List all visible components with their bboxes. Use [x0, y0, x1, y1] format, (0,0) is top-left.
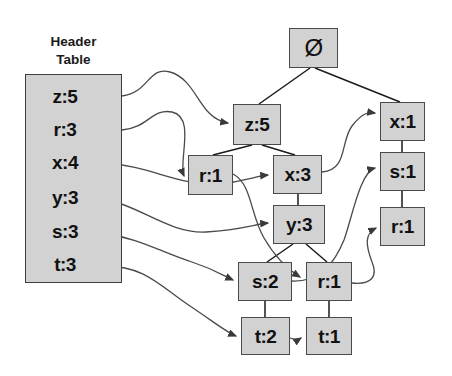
- link-x3-to-x1: [322, 113, 375, 172]
- edge-z5-x3: [262, 145, 295, 155]
- tree-node-t1[interactable]: t:1: [306, 317, 352, 355]
- link-header-s-to-s2: [105, 234, 233, 280]
- tree-node-s2[interactable]: s:2: [238, 262, 292, 301]
- link-t2-to-t1: [290, 338, 301, 340]
- link-header-t-to-t2: [105, 266, 236, 336]
- edge-root-x1: [315, 68, 400, 102]
- edge-y3-s2: [267, 244, 293, 262]
- header-row-y[interactable]: y:3: [25, 187, 105, 209]
- header-row-r[interactable]: r:3: [25, 119, 105, 141]
- header-table-caption-line1: Header: [25, 33, 122, 51]
- tree-node-root[interactable]: Ø: [289, 28, 338, 68]
- tree-node-y3[interactable]: y:3: [273, 205, 325, 244]
- tree-node-z5[interactable]: z:5: [233, 104, 281, 145]
- tree-node-x1[interactable]: x:1: [380, 102, 425, 141]
- header-table-caption: Header Table: [25, 33, 122, 69]
- edge-root-z5: [259, 68, 310, 104]
- tree-node-r1-middle[interactable]: r:1: [306, 262, 352, 301]
- header-row-x[interactable]: x:4: [25, 152, 105, 174]
- link-header-z-to-z5: [122, 71, 228, 123]
- tree-node-r1-right[interactable]: r:1: [380, 207, 425, 246]
- header-row-z[interactable]: z:5: [25, 86, 105, 108]
- header-row-t[interactable]: t:3: [25, 254, 105, 276]
- fp-tree-figure: Header Table z:5 r:3 x:4 y:3 s:3 t:3 Ø z…: [0, 0, 452, 376]
- edge-z5-r1a: [213, 145, 252, 155]
- header-table-caption-line2: Table: [25, 51, 122, 69]
- link-r1b-to-r1c: [352, 228, 376, 283]
- tree-node-x3[interactable]: x:3: [273, 155, 322, 194]
- link-header-x-to-x3: [105, 163, 268, 184]
- tree-node-t2[interactable]: t:2: [241, 317, 290, 355]
- edge-y3-r1b: [306, 244, 327, 262]
- tree-node-r1-left[interactable]: r:1: [188, 155, 233, 195]
- header-row-s[interactable]: s:3: [25, 221, 105, 243]
- link-header-r-to-r1a: [122, 111, 185, 176]
- tree-node-s1[interactable]: s:1: [380, 152, 425, 191]
- link-header-y-to-y3: [105, 199, 268, 232]
